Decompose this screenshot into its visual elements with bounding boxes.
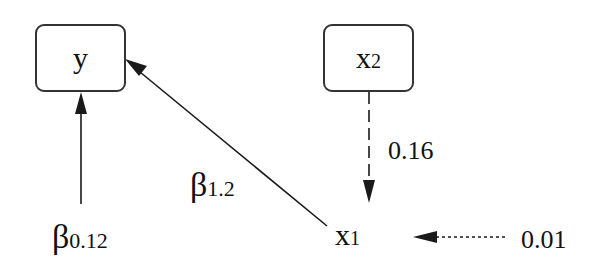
beta-symbol: β [52, 218, 69, 255]
node-y-label: y [73, 41, 88, 75]
node-x1-var: x [335, 218, 350, 251]
label-error-coef: 0.01 [521, 225, 567, 255]
edge-beta0-to-y [75, 92, 87, 204]
edge-error-to-x1 [413, 231, 505, 243]
node-x2-label: x2 [356, 41, 381, 75]
beta-subscript: 1.2 [207, 176, 235, 201]
label-beta-1-2: β1.2 [190, 166, 235, 204]
beta-symbol: β [190, 166, 207, 203]
arrowhead-icon [413, 231, 437, 243]
node-x1: x1 [335, 218, 360, 252]
arrowhead-icon [363, 180, 375, 203]
node-x2-sub: 2 [371, 50, 381, 72]
node-x2-var: x [356, 41, 371, 74]
node-y: y [35, 24, 126, 92]
label-x2-x1-coef: 0.16 [388, 136, 434, 166]
beta-subscript: 0.12 [69, 228, 108, 253]
arrowhead-icon [75, 92, 87, 114]
arrowhead-icon [125, 59, 147, 76]
edge-x2-to-x1 [363, 92, 375, 203]
node-x1-sub: 1 [350, 227, 360, 249]
label-beta-0-12: β0.12 [52, 218, 108, 256]
node-x2: x2 [323, 24, 414, 92]
